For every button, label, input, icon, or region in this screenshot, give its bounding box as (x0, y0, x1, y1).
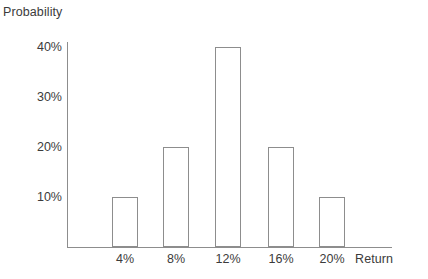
x-tick-label: 20% (312, 252, 352, 266)
x-tick-label: 12% (208, 252, 248, 266)
bar (112, 197, 138, 247)
bar (215, 47, 241, 247)
x-tick-label: 4% (105, 252, 145, 266)
x-tick-label: 8% (156, 252, 196, 266)
probability-return-bar-chart: Probability Return 10%20%30%40% 4%8%12%1… (0, 0, 428, 279)
bar (268, 147, 294, 247)
x-tick-label: 16% (261, 252, 301, 266)
plot-area (0, 0, 428, 279)
bar (319, 197, 345, 247)
bar (163, 147, 189, 247)
